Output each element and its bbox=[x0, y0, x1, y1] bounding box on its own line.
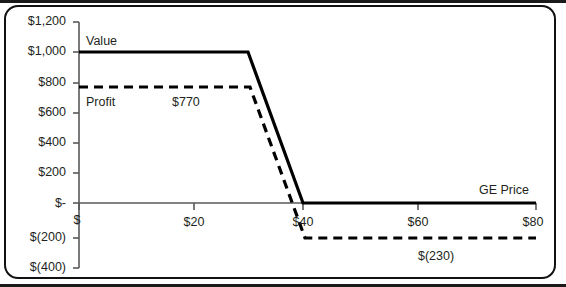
x-tick-label: $80 bbox=[503, 216, 563, 229]
y-tick-label: $(400) bbox=[0, 261, 66, 274]
y-tick-label: $800 bbox=[0, 76, 66, 89]
y-axis-ticks bbox=[73, 22, 79, 268]
annotation-profit-value: $770 bbox=[172, 96, 200, 109]
y-tick-label: $- bbox=[0, 197, 66, 210]
series-label-value: Value bbox=[86, 35, 117, 48]
y-tick-label: $200 bbox=[0, 166, 66, 179]
chart-canvas bbox=[0, 0, 566, 287]
x-origin-label: $ bbox=[47, 214, 107, 227]
x-axis-title: GE Price bbox=[479, 184, 529, 197]
y-tick-label: $600 bbox=[0, 106, 66, 119]
x-tick-label: $60 bbox=[388, 216, 448, 229]
series-line-value bbox=[79, 52, 536, 203]
y-tick-label: $400 bbox=[0, 136, 66, 149]
x-tick-label: $20 bbox=[164, 216, 224, 229]
plot-area: $1,200 $1,000 $800 $600 $400 $200 $- $(2… bbox=[0, 0, 566, 287]
series-label-profit: Profit bbox=[86, 96, 115, 109]
x-tick-label: $40 bbox=[273, 216, 333, 229]
chart-figure: $1,200 $1,000 $800 $600 $400 $200 $- $(2… bbox=[0, 0, 566, 287]
y-tick-label: $1,000 bbox=[0, 45, 66, 58]
annotation-loss-value: $(230) bbox=[418, 250, 454, 263]
y-tick-label: $1,200 bbox=[0, 15, 66, 28]
y-tick-label: $(200) bbox=[0, 231, 66, 244]
